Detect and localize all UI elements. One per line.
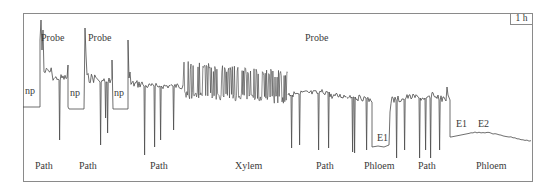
phase-label-bottom: Path xyxy=(79,161,97,171)
phase-label-inline: E1 xyxy=(377,133,388,143)
phase-label-inline: E2 xyxy=(478,119,489,129)
phase-label-top: Probe xyxy=(41,33,64,43)
phase-label-bottom: Path xyxy=(35,161,53,171)
phase-label-top: Probe xyxy=(88,33,111,43)
phase-label-bottom: Xylem xyxy=(235,161,262,171)
phase-label-bottom: Phloem xyxy=(476,161,507,171)
phase-label-inline: np xyxy=(25,86,35,96)
phase-label-bottom: Path xyxy=(150,161,168,171)
phase-label-bottom: Path xyxy=(418,161,436,171)
time-scale-bar: 1 h xyxy=(510,13,532,25)
phase-label-inline: E1 xyxy=(456,119,467,129)
phase-label-bottom: Phloem xyxy=(364,161,395,171)
phase-label-top: Probe xyxy=(305,33,328,43)
phase-label-inline: np xyxy=(114,88,124,98)
phase-label-bottom: Path xyxy=(316,161,334,171)
phase-label-inline: np xyxy=(70,88,80,98)
